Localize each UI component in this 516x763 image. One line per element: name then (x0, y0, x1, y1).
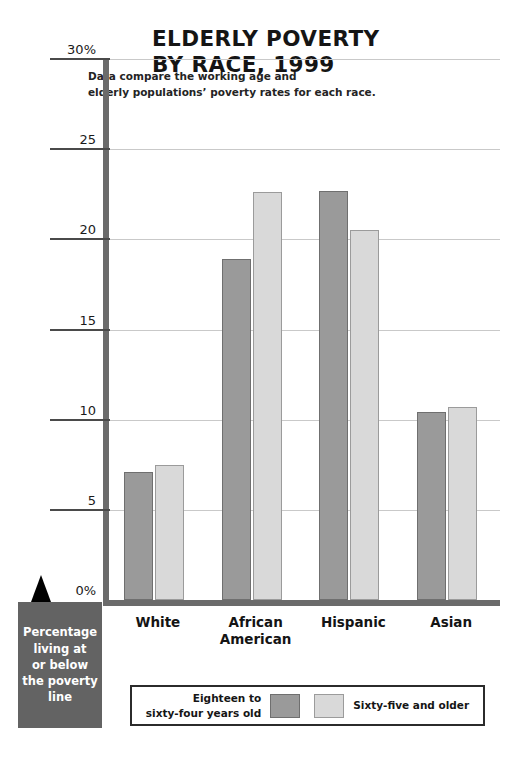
legend-entry-elderly: Sixty-five and older (314, 694, 469, 718)
y-axis-tick-rule (50, 58, 110, 60)
bar-hispanic-series2 (350, 230, 379, 600)
gridline (109, 239, 500, 240)
gridline (109, 149, 500, 150)
y-axis-tick-rule (50, 419, 110, 421)
y-axis-tick-label: 10 (0, 403, 102, 418)
y-axis-tick-rule (50, 238, 110, 240)
legend-label-working-age: Eighteen to sixty-four years old (146, 691, 261, 719)
bar-african-american-series1 (222, 259, 251, 600)
y-axis-tick-label: 0% (0, 583, 102, 598)
gridline (109, 59, 500, 60)
bar-white-series1 (124, 472, 153, 600)
bar-asian-series1 (417, 412, 446, 600)
legend-entry-working-age: Eighteen to sixty-four years old (146, 691, 300, 719)
bar-asian-series2 (448, 407, 477, 600)
bar-african-american-series2 (253, 192, 282, 600)
y-axis-tick-label: 15 (0, 313, 102, 328)
legend-swatch-working-age (270, 694, 300, 718)
legend-label-elderly: Sixty-five and older (353, 698, 469, 712)
y-axis-tick-label: 5 (0, 493, 102, 508)
chart-legend: Eighteen to sixty-four years old Sixty-f… (130, 685, 485, 726)
y-axis-tick-label: 25 (0, 132, 102, 147)
y-axis-tick-rule (50, 329, 110, 331)
bar-white-series2 (155, 465, 184, 600)
y-axis-tick-rule (50, 509, 110, 511)
gridline (109, 330, 500, 331)
callout-arrow-icon (31, 575, 51, 602)
x-axis-category-label: Asian (391, 614, 511, 631)
y-axis-tick-label: 20 (0, 222, 102, 237)
y-axis-tick-rule (50, 148, 110, 150)
y-axis-callout-label: Percentage living at or below the povert… (18, 602, 102, 728)
y-axis-tick-label: 30% (0, 42, 102, 57)
legend-swatch-elderly (314, 694, 344, 718)
plot-area (58, 58, 500, 604)
bar-hispanic-series1 (319, 191, 348, 600)
